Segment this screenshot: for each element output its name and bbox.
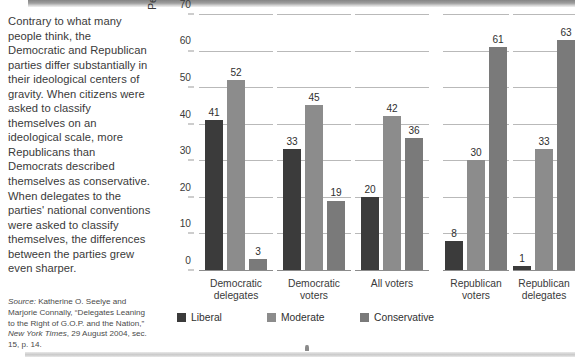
y-axis-tick-label: 20 (165, 183, 191, 193)
bar-value-label: 63 (560, 28, 571, 38)
bar-value-label: 42 (386, 104, 397, 114)
y-axis-tick-mark (188, 196, 194, 197)
bar-moderate[interactable]: 30 (467, 14, 485, 270)
bar-moderate[interactable]: 42 (383, 14, 401, 270)
bar-conservative[interactable]: 63 (557, 14, 575, 270)
body-paragraph: Contrary to what many people think, the … (8, 14, 151, 276)
bar-rect[interactable] (513, 266, 531, 270)
bar-value-label: 36 (408, 126, 419, 136)
bar-conservative[interactable]: 36 (405, 14, 423, 270)
bar-chart: Percentage of respondents 01020304050607… (151, 10, 575, 340)
bars-container: 13363 (513, 14, 575, 270)
y-axis-tick-label: 10 (165, 219, 191, 229)
legend-item-moderate[interactable]: Moderate (267, 312, 331, 323)
y-axis-tick-mark (188, 160, 194, 161)
bar-group: 204236All voters (355, 14, 429, 271)
x-axis-line (513, 270, 575, 271)
legend-swatch-icon (177, 313, 186, 322)
bar-rect[interactable] (327, 201, 345, 270)
bar-group: 334519Democratic voters (277, 14, 351, 271)
y-axis-tick-label: 40 (165, 109, 191, 119)
y-axis-tick-label: 0 (165, 256, 191, 266)
x-axis-line (199, 270, 273, 271)
bar-liberal[interactable]: 8 (445, 14, 463, 270)
bar-liberal[interactable]: 33 (283, 14, 301, 270)
bar-value-label: 45 (308, 93, 319, 103)
y-axis-tick-mark (188, 14, 194, 15)
y-axis-tick-label: 50 (165, 73, 191, 83)
legend-label: Liberal (191, 312, 222, 323)
source-publication: New York Times (8, 329, 67, 338)
chart-legend: LiberalModerateConservative (177, 312, 434, 323)
bar-value-label: 33 (286, 137, 297, 147)
x-axis-category-label: Democratic voters (269, 278, 359, 303)
bar-moderate[interactable]: 45 (305, 14, 323, 270)
legend-label: Moderate (281, 312, 325, 323)
bar-value-label: 1 (519, 254, 525, 264)
legend-item-liberal[interactable]: Liberal (177, 312, 241, 323)
bars-container: 204236 (355, 14, 429, 270)
plot-area: 010203040506070 41523Democratic delegate… (195, 14, 575, 271)
source-citation: Source: Katherine O. Seelye and Marjorie… (8, 287, 151, 351)
bar-conservative[interactable]: 3 (249, 14, 267, 270)
y-axis-tick-mark (188, 50, 194, 51)
y-axis-tick-mark (188, 270, 194, 271)
y-axis-tick-label: 60 (165, 36, 191, 46)
y-axis-tick-label: 30 (165, 146, 191, 156)
bar-rect[interactable] (227, 80, 245, 270)
bar-rect[interactable] (489, 47, 507, 270)
bar-moderate[interactable]: 52 (227, 14, 245, 270)
legend-item-conservative[interactable]: Conservative (360, 312, 434, 323)
bar-rect[interactable] (249, 259, 267, 270)
bar-value-label: 52 (230, 68, 241, 78)
legend-label: Conservative (374, 312, 434, 323)
x-axis-category-label: Republican delegates (499, 278, 575, 303)
bar-group: 41523Democratic delegates (199, 14, 273, 271)
x-axis-category-label: Democratic delegates (191, 278, 281, 303)
sidebar-text-column: Contrary to what many people think, the … (8, 14, 151, 350)
bar-rect[interactable] (445, 241, 463, 270)
bar-rect[interactable] (535, 149, 553, 270)
x-axis-category-label: All voters (347, 278, 437, 290)
bar-rect[interactable] (467, 160, 485, 270)
page-mark-icon (305, 345, 309, 351)
bar-value-label: 30 (470, 148, 481, 158)
y-axis-title: Percentage of respondents (147, 0, 161, 78)
y-axis-tick-label: 70 (165, 0, 191, 10)
legend-swatch-icon (267, 313, 276, 322)
bar-value-label: 20 (364, 185, 375, 195)
bar-liberal[interactable]: 1 (513, 14, 531, 270)
bar-moderate[interactable]: 33 (535, 14, 553, 270)
bar-group: 83061Republican voters (443, 14, 509, 271)
y-axis-tick-mark (188, 123, 194, 124)
bar-rect[interactable] (305, 105, 323, 270)
bar-value-label: 8 (451, 229, 457, 239)
bars-container: 41523 (199, 14, 273, 270)
bar-group: 13363Republican delegates (513, 14, 575, 271)
bar-value-label: 33 (538, 137, 549, 147)
bar-rect[interactable] (283, 149, 301, 270)
scan-artifact-bottom (25, 352, 575, 357)
bar-rect[interactable] (383, 116, 401, 270)
bars-container: 334519 (277, 14, 351, 270)
bar-rect[interactable] (205, 120, 223, 270)
bar-value-label: 19 (330, 188, 341, 198)
y-axis-tick-mark (188, 233, 194, 234)
bar-liberal[interactable]: 41 (205, 14, 223, 270)
scan-artifact-top (28, 0, 575, 7)
bar-value-label: 61 (492, 35, 503, 45)
bar-rect[interactable] (361, 197, 379, 270)
source-label: Source: (8, 297, 36, 306)
x-axis-line (277, 270, 351, 271)
bar-value-label: 3 (255, 247, 261, 257)
bar-liberal[interactable]: 20 (361, 14, 379, 270)
bar-rect[interactable] (557, 40, 575, 270)
x-axis-line (355, 270, 429, 271)
bar-value-label: 41 (208, 108, 219, 118)
bar-conservative[interactable]: 61 (489, 14, 507, 270)
bars-container: 83061 (443, 14, 509, 270)
bar-conservative[interactable]: 19 (327, 14, 345, 270)
y-axis-tick-mark (188, 87, 194, 88)
x-axis-line (443, 270, 509, 271)
bar-rect[interactable] (405, 138, 423, 270)
